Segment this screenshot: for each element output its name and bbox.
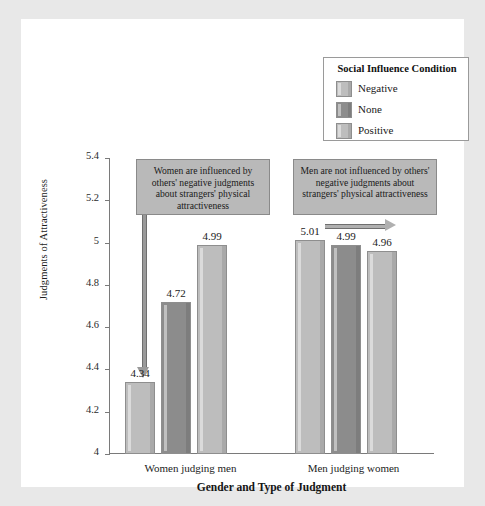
bar-positive-group-1[interactable] (367, 251, 397, 454)
y-tick-label: 4.4 (86, 361, 99, 372)
y-tick-mark (105, 454, 110, 455)
y-tick-label: 4.6 (86, 319, 99, 330)
legend-label-positive: Positive (358, 124, 393, 136)
image-frame: Social Influence Condition Negative None… (0, 0, 485, 506)
bar-value-label: 4.34 (119, 367, 161, 379)
y-axis-title: Judgments of Attractiveness (38, 110, 49, 370)
legend-title: Social Influence Condition (324, 63, 470, 74)
bar-value-label: 4.99 (191, 230, 233, 242)
y-tick-mark (105, 412, 110, 413)
bar-value-label: 4.72 (155, 287, 197, 299)
bar-value-label: 4.96 (361, 236, 403, 248)
y-tick-label: 5 (94, 235, 99, 246)
y-axis-line (109, 158, 110, 454)
y-tick-mark (105, 158, 110, 159)
x-category-label-1: Men judging women (272, 462, 435, 474)
y-tick-label: 5.2 (86, 192, 99, 203)
bar-negative-group-0[interactable] (125, 382, 155, 454)
annotation-callout-right: Men are not influenced by others' negati… (293, 159, 437, 215)
y-tick-mark (105, 200, 110, 201)
annotation-arrow-down-shaft (142, 215, 147, 369)
chart-legend: Social Influence Condition Negative None… (323, 57, 469, 141)
x-axis-title: Gender and Type of Judgment (109, 481, 434, 493)
y-tick-label: 4.8 (86, 277, 99, 288)
y-tick-label: 4.2 (86, 404, 99, 415)
legend-label-none: None (358, 103, 382, 115)
y-tick-mark (105, 369, 110, 370)
chart-card: Social Influence Condition Negative None… (21, 19, 464, 487)
y-tick-label: 4 (94, 446, 99, 457)
legend-swatch-positive (336, 123, 352, 139)
bar-none-group-0[interactable] (161, 302, 191, 454)
annotation-callout-left: Women are influenced by others' negative… (136, 159, 270, 215)
legend-swatch-none (336, 102, 352, 118)
annotation-arrow-right-icon (385, 219, 396, 231)
y-tick-label: 5.4 (86, 150, 99, 161)
bar-none-group-1[interactable] (331, 245, 361, 454)
y-tick-mark (105, 285, 110, 286)
annotation-arrow-right-shaft (325, 224, 387, 229)
bar-negative-group-1[interactable] (295, 240, 325, 454)
legend-label-negative: Negative (358, 82, 398, 94)
bar-positive-group-0[interactable] (197, 245, 227, 454)
x-category-label-0: Women judging men (109, 462, 272, 474)
y-tick-mark (105, 327, 110, 328)
y-tick-mark (105, 243, 110, 244)
legend-swatch-negative (336, 81, 352, 97)
